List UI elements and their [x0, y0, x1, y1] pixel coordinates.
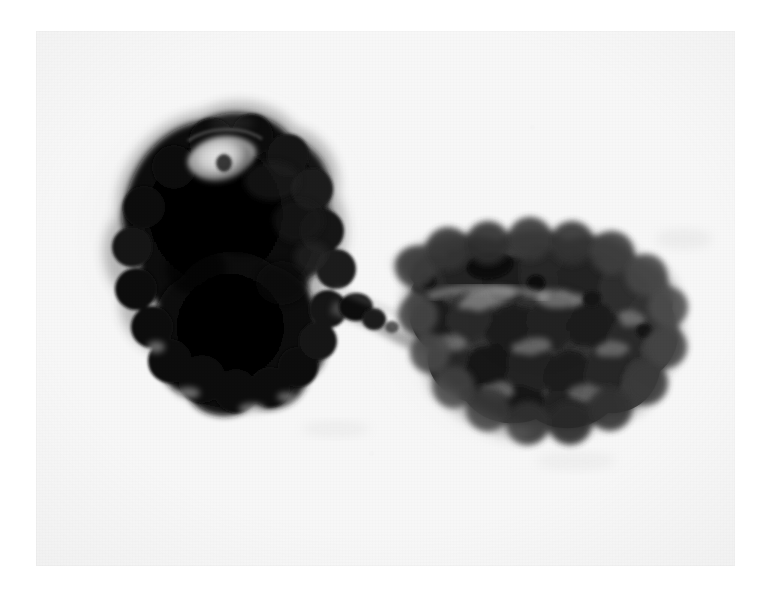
specimen-vector	[36, 31, 735, 566]
photomicrograph-canvas	[0, 0, 766, 608]
photographic-plate	[36, 31, 735, 566]
right-dark-granule-c	[583, 291, 601, 307]
cell-left	[104, 101, 356, 416]
specimen-field	[36, 31, 735, 566]
bridge-bead-small	[385, 321, 399, 333]
bridge-bead-distal	[362, 308, 386, 330]
right-dark-granule-a	[527, 275, 545, 291]
left-nucleolus-granule	[216, 154, 232, 172]
